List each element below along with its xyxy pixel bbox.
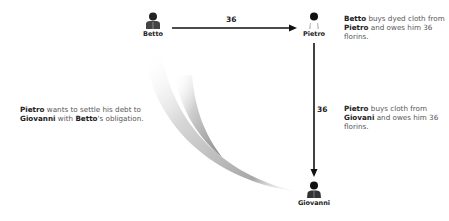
node-label-giovanni: Giovanni (294, 199, 334, 207)
node-label-pietro: Pietro (294, 30, 334, 38)
description-pietro-debt: Pietro buys cloth from Giovani and owes … (344, 104, 448, 132)
arrowhead-down-icon (311, 169, 318, 177)
node-label-betto: Betto (133, 30, 173, 38)
transfer-swoosh-large (146, 55, 300, 192)
description-settlement: Pietro wants to settle his debt to Giova… (20, 105, 150, 123)
amount-betto-pietro: 36 (226, 15, 236, 24)
node-pietro: Pietro (294, 12, 334, 38)
person-icon (306, 12, 322, 29)
node-giovanni: Giovanni (294, 181, 334, 207)
person-icon (306, 181, 322, 198)
description-betto-debt: Betto buys dyed cloth from Pietro and ow… (344, 14, 448, 42)
person-icon (145, 12, 161, 29)
amount-pietro-giovanni: 36 (317, 105, 327, 114)
node-betto: Betto (133, 12, 173, 38)
